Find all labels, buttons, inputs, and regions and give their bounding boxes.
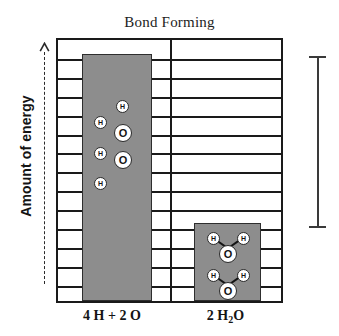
atom-hydrogen: H [94,116,107,129]
plot-area: H H H H O O H H O H H O [56,38,283,303]
atom-oxygen: O [114,124,132,142]
x-tick-label-products: 2 H2O [168,308,283,324]
energy-difference-bracket [317,56,319,226]
y-axis-label-text: Amount of energy [18,95,34,216]
y-axis-arrow-shaft [44,52,45,284]
atom-hydrogen: H [237,269,250,282]
x-tick-label-products-text: 2 H [207,308,228,323]
bracket-cap-bottom [309,226,326,228]
bracket-cap-top [309,56,326,58]
x-tick-label-reactants-text: 4 H + 2 O [83,308,141,323]
x-tick-label-products-subscript: 2 [228,314,233,325]
figure-root: Bond Forming Amount of energy H H H [0,0,339,336]
reactants-bar: H H H H O O [82,54,152,301]
category-divider [170,40,172,301]
atom-hydrogen: H [94,147,107,160]
atom-oxygen: O [219,245,237,263]
chart-title: Bond Forming [56,14,283,31]
products-bar: H H O H H O [194,223,261,301]
atom-oxygen: O [114,151,132,169]
atom-oxygen: O [219,282,237,300]
up-arrow-icon [39,42,50,53]
atom-hydrogen: H [207,269,220,282]
atom-hydrogen: H [116,100,129,113]
atom-hydrogen: H [207,232,220,245]
y-axis-label: Amount of energy [17,56,39,256]
atom-hydrogen: H [94,177,107,190]
x-tick-label-reactants: 4 H + 2 O [56,308,168,324]
atom-hydrogen: H [237,232,250,245]
x-tick-label-products-suffix: O [233,308,244,323]
